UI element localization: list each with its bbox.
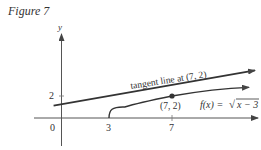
function-label-prefix: f(x) = xyxy=(200,99,223,111)
point-marker xyxy=(169,93,174,98)
radical-sign: √ xyxy=(229,98,236,110)
tick-label-x7: 7 xyxy=(169,122,174,133)
y-axis-label: y xyxy=(57,22,62,32)
tick-label-origin: 0 xyxy=(50,122,55,133)
tangent-label: tangent line at (7, 2) xyxy=(130,69,208,92)
svg-text:x − 3: x − 3 xyxy=(236,99,258,110)
point-label: (7, 2) xyxy=(160,101,181,112)
radicand: x − 3 xyxy=(236,99,258,110)
function-label: f(x) = √ x − 3 xyxy=(200,98,259,111)
svg-text:f(x) =: f(x) = xyxy=(200,99,223,111)
tick-label-y2: 2 xyxy=(49,90,54,101)
graph: y 0 3 7 2 tangent line at (7, 2) (7, 2) … xyxy=(0,0,261,150)
svg-text:√: √ xyxy=(229,98,236,110)
tick-label-x3: 3 xyxy=(106,122,111,133)
